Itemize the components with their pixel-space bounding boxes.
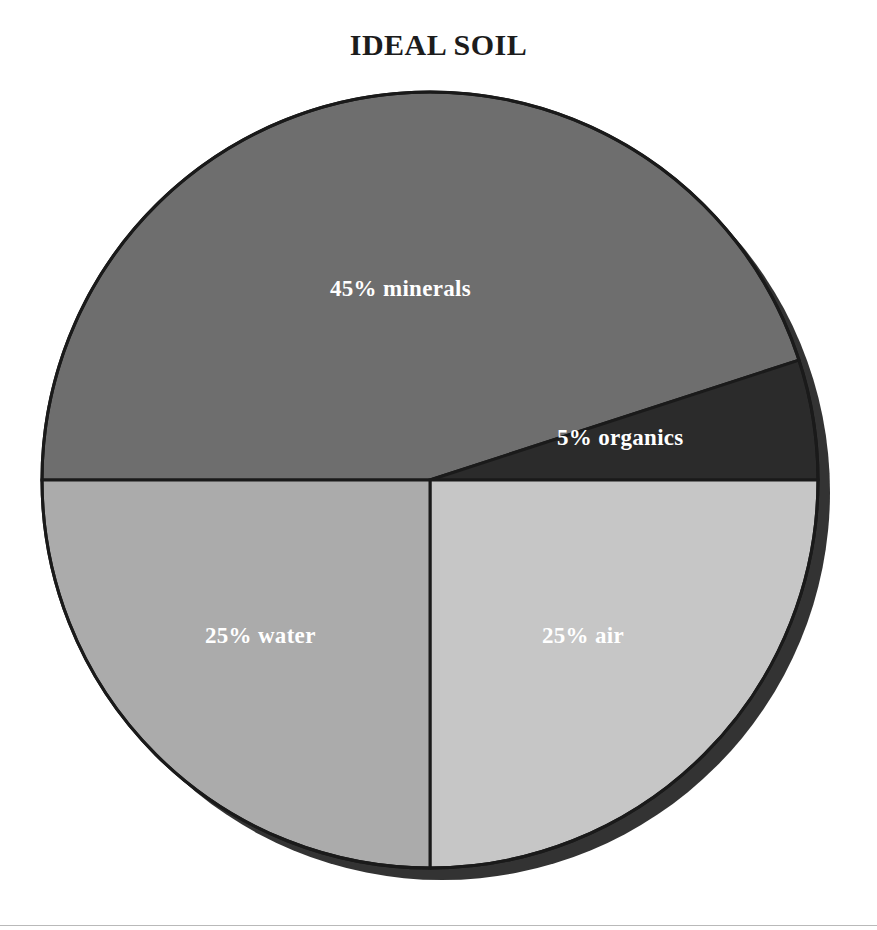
pie-slice-air[interactable] [430, 480, 818, 868]
chart-page: IDEAL SOIL 45% minerals 5% organics 2 [0, 0, 877, 930]
pie-slice-water[interactable] [42, 480, 430, 868]
pie-chart-svg [0, 60, 877, 900]
page-divider [0, 925, 877, 926]
page-title: IDEAL SOIL [0, 28, 877, 62]
pie-chart: 45% minerals 5% organics 25% air 25% wat… [0, 60, 877, 900]
